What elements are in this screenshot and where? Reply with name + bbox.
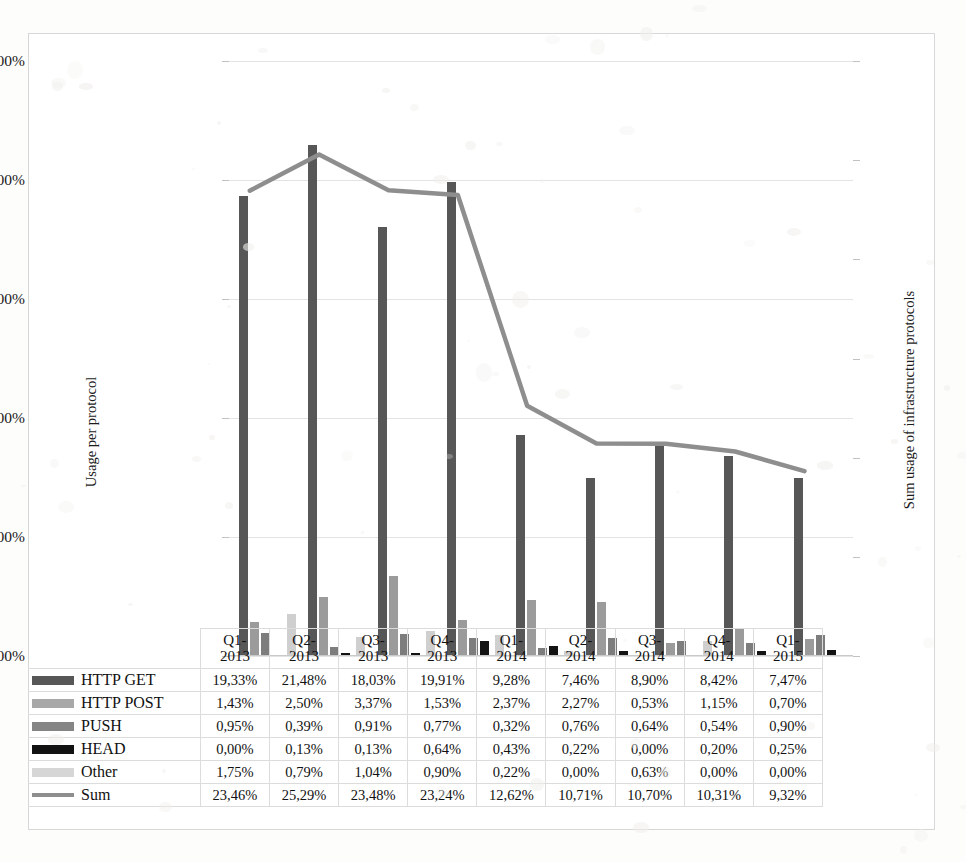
table-column-header: Q1-2015 (753, 629, 822, 669)
scan-speckle (957, 452, 966, 459)
data-table: Q1-2013Q2-2013Q3-2013Q4-2013Q1-2014Q2-20… (28, 628, 823, 807)
table-cell: 7,47% (753, 669, 822, 692)
scan-speckle (341, 450, 353, 461)
scan-speckle (258, 48, 268, 53)
y-tick-mark-right (853, 61, 860, 62)
scan-speckle (159, 802, 172, 811)
table-cell: 0,53% (615, 692, 684, 715)
y-tick-mark-right (853, 259, 860, 260)
table-row-label-cell: HTTP POST (28, 692, 200, 715)
legend-swatch-icon (32, 722, 74, 731)
table-cell: 0,90% (408, 761, 477, 784)
table-cell: 0,79% (269, 761, 338, 784)
table-cell: 1,43% (200, 692, 269, 715)
table-cell: 1,15% (684, 692, 753, 715)
scan-speckle (633, 822, 649, 832)
table-cell: 2,37% (477, 692, 546, 715)
table-row-label-cell: HTTP GET (28, 669, 200, 692)
table-row-label-cell: Sum (28, 784, 200, 807)
scan-speckle (540, 179, 544, 183)
table-cell: 0,32% (477, 715, 546, 738)
table-cell: 21,48% (269, 669, 338, 692)
scan-speckle (243, 243, 254, 251)
table-cell: 7,46% (546, 669, 615, 692)
scan-speckle (574, 327, 590, 338)
table-cell: 10,31% (684, 784, 753, 807)
scan-speckle (58, 501, 74, 513)
scan-speckle (692, 5, 707, 12)
table-column-header: Q4-2013 (408, 629, 477, 669)
table-cell: 19,91% (408, 669, 477, 692)
y-tick-mark-left (222, 299, 229, 300)
table-column-header: Q2-2013 (269, 629, 338, 669)
scan-speckle (960, 805, 966, 809)
table-cell: 8,42% (684, 669, 753, 692)
scan-speckle (957, 555, 961, 558)
scan-speckle (787, 228, 801, 236)
legend-label: PUSH (81, 717, 122, 735)
table-cell: 0,76% (546, 715, 615, 738)
legend-swatch-icon (32, 699, 74, 708)
y-tick-mark-left (222, 180, 229, 181)
scan-speckle (630, 738, 641, 749)
chart-page: Usage per protocol Sum usage of infrastr… (0, 0, 966, 862)
table-cell: 0,13% (339, 738, 408, 761)
scan-speckle (492, 372, 499, 376)
table-column-header: Q1-2014 (477, 629, 546, 669)
scan-speckle (914, 829, 928, 842)
legend-label: Other (81, 763, 117, 781)
scan-speckle (915, 546, 921, 551)
table-column-header: Q2-2014 (546, 629, 615, 669)
legend-swatch-icon (32, 793, 74, 797)
table-cell: 0,00% (615, 738, 684, 761)
table-cell: 25,29% (269, 784, 338, 807)
table-cell: 0,63% (615, 761, 684, 784)
table-cell: 10,70% (615, 784, 684, 807)
table-cell: 10,71% (546, 784, 615, 807)
y-tick-label-left: 10,00% (0, 409, 25, 427)
table-cell: 19,33% (200, 669, 269, 692)
scan-speckle (807, 722, 814, 730)
table-cell: 9,32% (753, 784, 822, 807)
table-corner-cell (28, 629, 200, 669)
table-column-header: Q3-2014 (615, 629, 684, 669)
table-header-row: Q1-2013Q2-2013Q3-2013Q4-2013Q1-2014Q2-20… (28, 629, 823, 669)
scan-speckle (926, 743, 940, 752)
y-tick-mark-left (222, 418, 229, 419)
table-cell: 3,37% (339, 692, 408, 715)
y-tick-label-left: 5,00% (0, 528, 25, 546)
y-tick-mark-left (222, 61, 229, 62)
table-cell: 0,00% (546, 761, 615, 784)
scan-speckle (923, 637, 934, 647)
scan-speckle (225, 502, 233, 509)
y-tick-label-left: 15,00% (0, 290, 25, 308)
table-row: PUSH0,95%0,39%0,91%0,77%0,32%0,76%0,64%0… (28, 715, 823, 738)
sum-line-path (250, 154, 805, 471)
y-axis-title-left: Usage per protocol (83, 376, 100, 486)
scan-speckle (382, 88, 390, 94)
scan-speckle (21, 485, 26, 487)
table-cell: 0,91% (339, 715, 408, 738)
scan-speckle (67, 61, 83, 78)
table-cell: 0,22% (546, 738, 615, 761)
table-cell: 0,13% (269, 738, 338, 761)
table-cell: 8,90% (615, 669, 684, 692)
table-row: HTTP POST1,43%2,50%3,37%1,53%2,37%2,27%0… (28, 692, 823, 715)
scan-speckle (665, 34, 669, 38)
scan-speckle (891, 439, 899, 443)
table-cell: 9,28% (477, 669, 546, 692)
scan-speckle (900, 846, 908, 855)
scan-speckle (162, 769, 166, 773)
legend-swatch-icon (32, 768, 74, 777)
table-cell: 23,46% (200, 784, 269, 807)
scan-speckle (545, 35, 559, 45)
table-cell: 0,95% (200, 715, 269, 738)
scan-speckle (361, 531, 364, 534)
y-tick-label-left: 0,00% (0, 647, 25, 665)
scan-speckle (465, 141, 476, 151)
table-cell: 18,03% (339, 669, 408, 692)
legend-swatch-icon (32, 745, 74, 754)
table-cell: 0,20% (684, 738, 753, 761)
table-cell: 2,27% (546, 692, 615, 715)
y-tick-mark-right (853, 160, 860, 161)
